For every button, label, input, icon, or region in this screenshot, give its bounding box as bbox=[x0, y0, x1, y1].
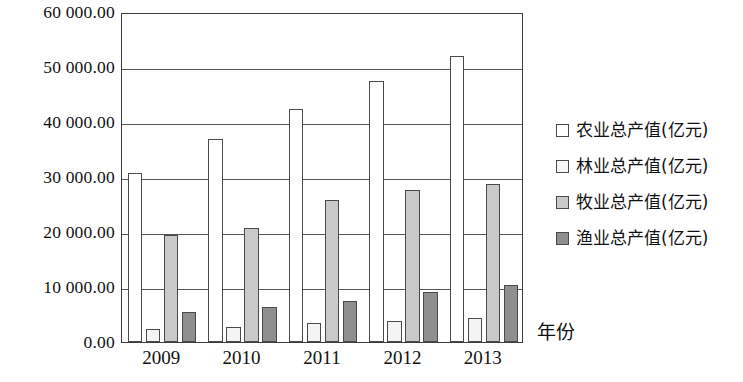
bar-chart: 0.0010 000.0020 000.0030 000.0040 000.00… bbox=[0, 0, 743, 382]
legend-swatch-icon bbox=[556, 160, 569, 173]
bar bbox=[208, 139, 223, 343]
y-axis-tick-label: 40 000.00 bbox=[2, 114, 115, 132]
legend-swatch-icon bbox=[556, 232, 569, 245]
plot-area bbox=[121, 13, 523, 343]
bar bbox=[182, 312, 197, 342]
x-axis-tick-label: 2012 bbox=[383, 348, 421, 367]
bar bbox=[128, 173, 143, 342]
legend-item: 农业总产值(亿元) bbox=[556, 112, 741, 148]
legend-label: 牧业总产值(亿元) bbox=[576, 194, 708, 211]
bar-group bbox=[128, 14, 197, 342]
legend-item: 牧业总产值(亿元) bbox=[556, 184, 741, 220]
bar bbox=[325, 200, 340, 342]
legend-swatch-icon bbox=[556, 196, 569, 209]
x-axis: 20092010201120122013 bbox=[121, 348, 523, 380]
bar bbox=[262, 307, 277, 342]
x-axis-tick-label: 2010 bbox=[223, 348, 261, 367]
legend-item: 林业总产值(亿元) bbox=[556, 148, 741, 184]
x-axis-tick-label: 2011 bbox=[303, 348, 340, 367]
bar-group bbox=[450, 14, 519, 342]
x-axis-tick-label: 2013 bbox=[464, 348, 502, 367]
y-axis-tick-label: 60 000.00 bbox=[2, 4, 115, 22]
x-axis-title: 年份 bbox=[537, 323, 575, 342]
bar-group bbox=[369, 14, 438, 342]
bar bbox=[423, 292, 438, 342]
bar bbox=[289, 109, 304, 342]
bar bbox=[307, 323, 322, 342]
bars-layer bbox=[122, 14, 522, 342]
y-axis-tick-label: 10 000.00 bbox=[2, 279, 115, 297]
bar bbox=[164, 235, 179, 342]
bar bbox=[504, 285, 519, 342]
bar bbox=[369, 81, 384, 342]
y-axis-tick-label: 50 000.00 bbox=[2, 59, 115, 77]
legend-item: 渔业总产值(亿元) bbox=[556, 220, 741, 256]
bar-group bbox=[289, 14, 358, 342]
legend-label: 农业总产值(亿元) bbox=[576, 122, 708, 139]
bar bbox=[146, 329, 161, 342]
legend-label: 林业总产值(亿元) bbox=[576, 158, 708, 175]
y-axis-tick-label: 30 000.00 bbox=[2, 169, 115, 187]
bar bbox=[244, 228, 259, 342]
bar bbox=[468, 318, 483, 342]
bar-group bbox=[208, 14, 277, 342]
y-axis-tick-label: 0.00 bbox=[2, 334, 115, 352]
legend: 农业总产值(亿元)林业总产值(亿元)牧业总产值(亿元)渔业总产值(亿元) bbox=[556, 112, 741, 256]
y-axis: 0.0010 000.0020 000.0030 000.0040 000.00… bbox=[0, 0, 115, 382]
bar bbox=[343, 301, 358, 342]
bar bbox=[226, 327, 241, 342]
bar bbox=[387, 321, 402, 342]
bar bbox=[405, 190, 420, 342]
bar bbox=[450, 56, 465, 342]
legend-label: 渔业总产值(亿元) bbox=[576, 230, 708, 247]
bar bbox=[486, 184, 501, 342]
y-axis-tick-label: 20 000.00 bbox=[2, 224, 115, 242]
x-axis-tick-label: 2009 bbox=[142, 348, 180, 367]
legend-swatch-icon bbox=[556, 124, 569, 137]
